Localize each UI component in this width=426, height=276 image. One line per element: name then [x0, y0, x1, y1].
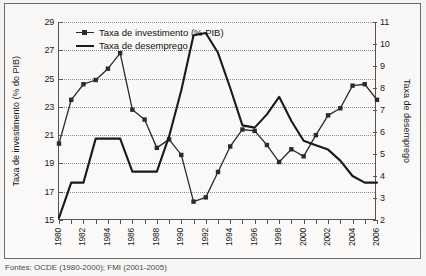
x-axis-tick-label: 2006	[372, 228, 381, 246]
data-point-marker	[363, 82, 367, 86]
y-axis-left-tick-label: 15	[44, 216, 54, 225]
legend-item[interactable]: Taxa de investimento (% PIB)	[76, 27, 224, 38]
data-point-marker	[93, 78, 97, 82]
y-axis-right-tick-label: 5	[380, 150, 385, 159]
data-point-marker	[228, 144, 232, 148]
x-axis-tick-mark	[255, 220, 256, 224]
y-axis-right-tick-label: 2	[380, 216, 385, 225]
source-caption: Fontes: OCDE (1980-2000); FMI (2001-2005…	[5, 263, 420, 273]
y-axis-left-tick-label: 23	[44, 102, 54, 111]
x-axis-tick-mark	[206, 220, 207, 224]
y-axis-right-tick-label: 10	[380, 40, 390, 49]
x-axis-tick-mark	[353, 220, 354, 224]
x-axis-tick-mark	[181, 220, 182, 224]
data-point-marker	[338, 106, 342, 110]
x-axis-tick-mark	[132, 220, 133, 224]
y-axis-left-tick-mark	[59, 135, 63, 136]
data-point-marker	[350, 83, 354, 87]
data-point-marker	[142, 117, 146, 121]
y-axis-right-tick-mark	[373, 22, 377, 23]
y-axis-left-tick-label: 17	[44, 187, 54, 196]
x-axis-tick-label: 1998	[274, 228, 283, 246]
legend-swatch-icon	[76, 41, 94, 50]
y-axis-right-tick-mark	[373, 66, 377, 67]
x-axis-tick-mark	[59, 220, 60, 224]
x-axis-tick-mark	[365, 220, 366, 224]
x-axis-tick-mark	[169, 220, 170, 224]
x-axis-tick-mark	[230, 220, 231, 224]
x-axis-tick-mark	[316, 220, 317, 224]
data-point-marker	[179, 153, 183, 157]
y-axis-left-title-text: Taxa de investimento (% do PIB)	[11, 56, 21, 187]
x-axis-tick-label: 1988	[152, 228, 161, 246]
y-axis-right-tick-label: 11	[380, 18, 389, 27]
x-axis-tick-mark	[279, 220, 280, 224]
x-axis-tick-mark	[120, 220, 121, 224]
y-axis-right-tick-mark	[373, 88, 377, 89]
y-axis-left-tick-mark	[59, 163, 63, 164]
x-axis-tick-mark	[218, 220, 219, 224]
x-axis-tick-mark	[145, 220, 146, 224]
y-axis-right-tick-label: 9	[380, 62, 385, 71]
legend-swatch-icon	[76, 28, 94, 37]
x-axis-tick-label: 1992	[201, 228, 210, 246]
y-axis-left-tick-mark	[59, 107, 63, 108]
x-axis-tick-label: 2000	[299, 228, 308, 246]
data-point-marker	[130, 107, 134, 111]
data-point-marker	[155, 146, 159, 150]
y-axis-right-ticks: 234567891011	[380, 22, 400, 220]
y-axis-right-tick-label: 8	[380, 84, 385, 93]
x-axis-tick-label: 1980	[54, 228, 63, 246]
data-point-marker	[289, 147, 293, 151]
y-axis-right-tick-label: 3	[380, 194, 385, 203]
y-axis-right-tick-label: 4	[380, 172, 385, 181]
x-axis-tick-label: 2002	[323, 228, 332, 246]
y-axis-right-tick-mark	[373, 132, 377, 133]
y-axis-right-tick-mark	[373, 154, 377, 155]
data-point-marker	[252, 129, 256, 133]
x-axis-tick-mark	[194, 220, 195, 224]
legend-item[interactable]: Taxa de desemprego	[76, 40, 224, 51]
y-axis-left-tick-label: 29	[44, 18, 54, 27]
data-point-marker	[375, 98, 379, 102]
x-axis-tick-label: 1984	[103, 228, 112, 246]
y-axis-left-title: Taxa de investimento (% do PIB)	[9, 22, 23, 220]
data-point-marker	[240, 127, 244, 131]
x-axis-tick-mark	[267, 220, 268, 224]
x-axis-tick-mark	[71, 220, 72, 224]
data-point-marker	[216, 170, 220, 174]
y-axis-right-tick-mark	[373, 110, 377, 111]
y-axis-left-tick-mark	[59, 79, 63, 80]
y-axis-right-title-text: Taxa de desemprego	[402, 79, 412, 163]
data-point-marker	[314, 133, 318, 137]
x-axis-tick-label: 1982	[78, 228, 87, 246]
x-axis-tick-mark	[291, 220, 292, 224]
data-point-marker	[69, 98, 73, 102]
x-axis-tick-label: 1990	[176, 228, 185, 246]
x-axis-tick-mark	[242, 220, 243, 224]
series-line-2	[59, 33, 377, 218]
legend: Taxa de investimento (% PIB)Taxa de dese…	[74, 26, 226, 52]
legend-item-label: Taxa de desemprego	[99, 40, 188, 51]
x-axis-tick-mark	[83, 220, 84, 224]
y-axis-right-tick-mark	[373, 44, 377, 45]
y-axis-right-title: Taxa de desemprego	[400, 22, 414, 220]
x-axis-tick-label: 2004	[348, 228, 357, 246]
data-point-marker	[81, 82, 85, 86]
data-point-marker	[106, 66, 110, 70]
x-axis-tick-mark	[108, 220, 109, 224]
x-axis-tick-mark	[304, 220, 305, 224]
data-point-marker	[191, 199, 195, 203]
y-axis-right-tick-label: 7	[380, 106, 385, 115]
y-axis-left-tick-mark	[59, 192, 63, 193]
y-axis-left-tick-label: 21	[44, 131, 54, 140]
x-axis-tick-label: 1996	[250, 228, 259, 246]
y-axis-right-tick-mark	[373, 198, 377, 199]
y-axis-left-tick-label: 19	[44, 159, 54, 168]
data-point-marker	[301, 154, 305, 158]
y-axis-right-tick-label: 6	[380, 128, 385, 137]
data-point-marker	[277, 160, 281, 164]
x-axis-tick-mark	[377, 220, 378, 224]
series-line-1	[59, 53, 377, 202]
y-axis-left-tick-label: 27	[44, 46, 54, 55]
